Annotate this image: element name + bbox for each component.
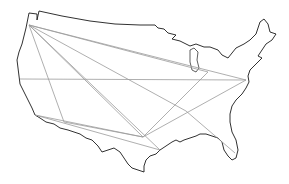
us-route-map [0, 0, 289, 184]
map-canvas [0, 0, 289, 184]
us-outline [17, 11, 276, 172]
